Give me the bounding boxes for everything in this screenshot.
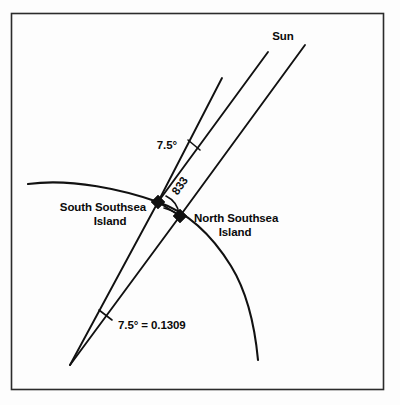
distance-label-group: 833: [169, 175, 190, 197]
marker-south-southsea-island: [151, 195, 165, 209]
south-island-label-line1: South Southsea: [60, 201, 147, 213]
sun-label: Sun: [272, 30, 293, 42]
radius-line-north-island: [70, 216, 180, 365]
diagram-canvas: Sun 7.5° 833 South Southsea Island North…: [0, 0, 400, 405]
marker-north-southsea-island: [173, 209, 187, 223]
angle-tick-top: [188, 140, 200, 150]
angle-top-label: 7.5°: [157, 139, 178, 151]
south-island-label-line2: Island: [94, 215, 127, 227]
north-island-label-line1: North Southsea: [194, 212, 279, 224]
sun-ray-south-island: [158, 52, 268, 202]
distance-label: 833: [169, 175, 190, 197]
north-island-label-line2: Island: [219, 226, 252, 238]
sun-ray-north-island: [180, 45, 305, 216]
figure-root: Sun 7.5° 833 South Southsea Island North…: [0, 0, 400, 405]
angle-bottom-label: 7.5° = 0.1309: [118, 319, 186, 331]
